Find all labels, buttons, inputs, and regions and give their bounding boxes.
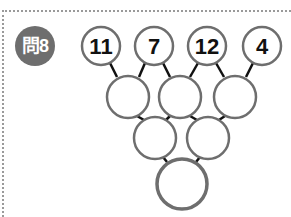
cell-r3-2[interactable]	[187, 117, 229, 159]
cell-r2-3[interactable]	[214, 76, 256, 118]
cell-r4-1[interactable]	[157, 159, 207, 209]
connector	[163, 63, 170, 77]
number-pyramid: 11 7 12 4	[0, 0, 291, 217]
cell-r2-2[interactable]	[159, 76, 201, 118]
value-r1-1: 11	[89, 34, 112, 59]
connector	[246, 63, 253, 77]
value-r1-4: 4	[256, 34, 269, 59]
cell-r2-1[interactable]	[107, 76, 149, 118]
value-r1-3: 12	[195, 34, 219, 59]
connector	[190, 63, 198, 77]
connector	[216, 63, 224, 77]
connector	[110, 63, 117, 77]
value-r1-2: 7	[148, 34, 160, 59]
cell-r3-1[interactable]	[134, 117, 176, 159]
connector	[139, 63, 145, 77]
